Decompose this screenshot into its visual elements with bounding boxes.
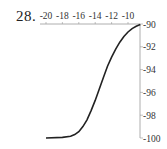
y-tick-label: -94 [143, 65, 156, 75]
x-tick-label: -10 [122, 11, 135, 21]
x-tick-label: -20 [40, 11, 53, 21]
axes [40, 24, 140, 138]
y-tick-label: -96 [143, 88, 156, 98]
x-axis-ticks: -20-18-16-14-12-10 [40, 11, 135, 24]
y-tick-label: -100 [143, 134, 161, 144]
x-tick-label: -12 [105, 11, 118, 21]
chart: -20-18-16-14-12-10 -90-92-94-96-98-100 [0, 0, 167, 149]
x-tick-label: -14 [89, 11, 102, 21]
x-tick-label: -16 [72, 11, 85, 21]
y-axis-ticks: -90-92-94-96-98-100 [140, 20, 161, 144]
x-tick-label: -18 [56, 11, 69, 21]
y-tick-label: -92 [143, 42, 156, 52]
y-tick-label: -90 [143, 20, 156, 30]
y-tick-label: -98 [143, 111, 156, 121]
data-curve [46, 25, 140, 138]
